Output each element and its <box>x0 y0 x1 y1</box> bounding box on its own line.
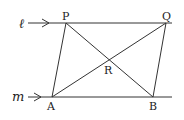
segment-QB <box>153 23 166 97</box>
label-A: A <box>46 100 56 113</box>
geometry-figure: ℓ m P Q A B R <box>0 0 184 120</box>
label-l: ℓ <box>19 16 25 31</box>
label-Q: Q <box>162 10 171 23</box>
label-m: m <box>12 89 24 104</box>
line-l <box>28 19 172 27</box>
diagram-svg: ℓ m P Q A B R <box>0 0 184 120</box>
segment-PA <box>52 23 66 97</box>
label-R: R <box>104 64 113 77</box>
segments <box>52 23 166 97</box>
segment-AQ <box>52 23 166 97</box>
label-B: B <box>149 100 157 113</box>
label-P: P <box>62 10 70 23</box>
